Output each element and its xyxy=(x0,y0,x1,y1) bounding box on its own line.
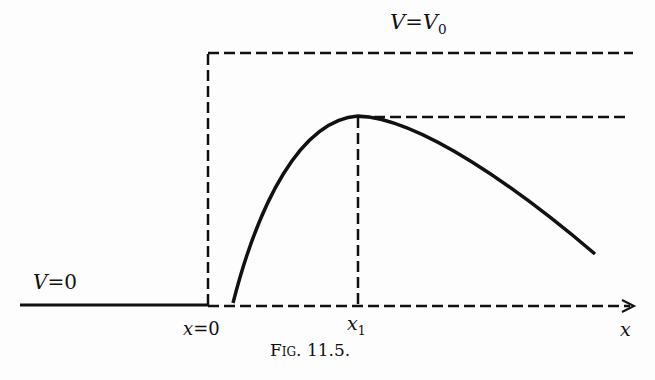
label-x-equals-0: x=0 xyxy=(183,318,220,339)
label-v-equals-v0: V=V0 xyxy=(390,10,447,37)
label-v-equals-0: V=0 xyxy=(33,270,77,294)
figure-caption: Fig. 11.5. xyxy=(270,340,350,360)
figure: V=V0 V=0 x=0 x1 x Fig. 11.5. xyxy=(0,0,655,380)
curve xyxy=(233,116,595,303)
axis-label-x: x xyxy=(620,318,631,340)
diagram-svg xyxy=(0,0,655,380)
label-x1: x1 xyxy=(347,312,366,338)
